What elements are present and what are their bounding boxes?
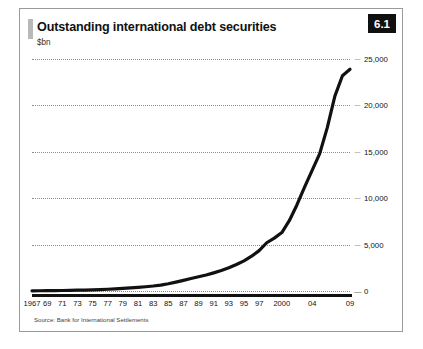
y-tick-value: 15,000 [364,147,388,156]
x-axis-tick-label: 73 [73,299,81,308]
series-line-outstanding-debt [32,69,350,291]
x-axis-tick-label: 71 [58,299,66,308]
y-axis-tick-label: ····25,000 [354,55,388,64]
y-axis-tick-label: —0 [354,287,368,296]
y-axis-tick-label: ····20,000 [354,101,388,110]
x-axis-tick-label: 75 [88,299,96,308]
source-note: Source: Bank for International Settlemen… [34,316,149,323]
x-axis-tick-label: 87 [179,299,187,308]
title-accent-bar [28,19,33,39]
y-tick-value: 20,000 [364,101,388,110]
x-axis-tick-label: 79 [119,299,127,308]
y-tick-dash-icon: ···· [354,147,364,156]
figure-number-badge: 6.1 [368,14,396,33]
x-axis-tick-label: 95 [240,299,248,308]
x-axis-tick-label: 91 [209,299,217,308]
y-tick-dash-icon: — [354,287,364,296]
x-axis-tick-label: 77 [103,299,111,308]
x-axis-tick-label: 93 [225,299,233,308]
y-tick-dash-icon: ···· [354,194,364,203]
x-axis-tick-label: 97 [255,299,263,308]
y-axis-tick-label: ····5,000 [354,240,384,249]
chart-subtitle: $bn [37,38,51,47]
chart-figure: Outstanding international debt securitie… [19,8,403,332]
x-axis-tick-label: 1967 [24,299,41,308]
plot-area [32,59,350,291]
x-axis-tick-label: 85 [164,299,172,308]
x-axis-tick-label: 69 [43,299,51,308]
y-tick-dash-icon: ···· [354,55,364,64]
y-tick-value: 5,000 [364,240,384,249]
y-tick-dash-icon: ···· [354,240,364,249]
x-axis-tick-label: 81 [134,299,142,308]
y-axis-tick-label: ····10,000 [354,194,388,203]
y-tick-value: 0 [364,287,368,296]
y-axis-tick-label: ····15,000 [354,147,388,156]
page-title: Outstanding international debt securitie… [37,20,276,34]
x-axis-tick-label: 09 [346,299,354,308]
x-axis-tick-label: 2000 [273,299,290,308]
x-axis-tick-label: 04 [308,299,316,308]
series-line-chart [32,59,350,291]
x-axis-tick-label: 89 [194,299,202,308]
y-tick-dash-icon: ···· [354,101,364,110]
chart-header: Outstanding international debt securitie… [20,9,402,55]
y-tick-value: 25,000 [364,55,388,64]
x-axis-tick-label: 83 [149,299,157,308]
y-tick-value: 10,000 [364,194,388,203]
x-axis-baseline [32,294,352,297]
